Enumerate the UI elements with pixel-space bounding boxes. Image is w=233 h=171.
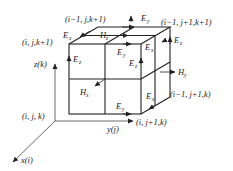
svg-text:E: E [140, 13, 147, 23]
svg-text:z: z [78, 59, 82, 65]
z-axis-label: z(k) [33, 59, 47, 69]
svg-text:x: x [85, 92, 89, 98]
svg-text:x: x [151, 96, 155, 102]
svg-text:x: x [150, 47, 154, 53]
y-axis-label: y(j) [106, 124, 119, 134]
label-ex-top-right: Ex [144, 42, 154, 53]
label-ey-top-front: Ey [116, 47, 126, 58]
label-ez-back-right: Ez [173, 35, 183, 46]
label-hz-top: Hz [99, 30, 109, 41]
label-ez-front-mid: Ez [128, 58, 138, 69]
field-arrows [69, 16, 175, 114]
svg-text:E: E [145, 91, 152, 101]
node-bottom-front-right: (i, j+1,k) [136, 117, 167, 127]
svg-text:E: E [144, 42, 151, 52]
label-ez-front-left: Ez [72, 54, 82, 65]
node-bottom-back-right: (i−1, j+1,k) [170, 89, 211, 99]
svg-text:x: x [68, 35, 72, 41]
x-axis-label: x(i) [20, 155, 33, 165]
node-top-front-left: (i, j,k+1) [22, 37, 53, 47]
label-hy-right: Hy [177, 67, 187, 78]
svg-text:E: E [72, 54, 79, 64]
svg-text:y: y [122, 52, 126, 58]
label-hx-front: Hx [79, 87, 89, 98]
label-ey-bottom: Ey [115, 101, 125, 112]
svg-text:E: E [128, 58, 135, 68]
label-ex-bottom-right: Ex [145, 91, 155, 102]
svg-text:E: E [173, 35, 180, 45]
node-top-back-left: (i−1, j,k+1) [65, 14, 106, 24]
svg-text:E: E [116, 47, 123, 57]
svg-text:E: E [62, 30, 69, 40]
svg-text:z: z [134, 63, 138, 69]
label-ey-top-back: Ey [140, 13, 150, 24]
svg-text:z: z [179, 40, 183, 46]
x-axis [13, 121, 55, 162]
node-top-back-right: (i−1, j+1,k+1) [161, 17, 212, 27]
svg-text:E: E [115, 101, 122, 111]
svg-text:y: y [146, 18, 150, 24]
label-ex-top: Ex [62, 30, 72, 41]
yee-cell-diagram: z(k) y(j) x(i) (i, j, k) (i, j,k+1) (i−1… [0, 0, 233, 171]
svg-text:y: y [121, 106, 125, 112]
svg-text:y: y [183, 72, 187, 78]
node-origin: (i, j, k) [22, 111, 45, 121]
